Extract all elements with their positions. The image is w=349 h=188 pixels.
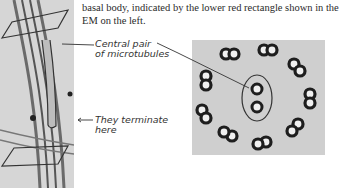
annotation-pointers — [0, 0, 349, 188]
